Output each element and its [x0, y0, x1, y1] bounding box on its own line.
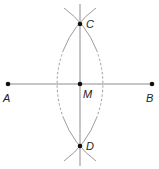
label-m: M: [83, 88, 93, 100]
point-c: [78, 22, 83, 27]
label-d: D: [86, 140, 94, 152]
point-b: [150, 82, 155, 87]
point-m: [78, 82, 83, 87]
label-c: C: [86, 18, 94, 30]
point-d: [78, 144, 83, 149]
point-a: [6, 82, 11, 87]
label-b: B: [146, 92, 153, 104]
label-a: A: [2, 92, 10, 104]
bisector-diagram: A B M C D: [0, 0, 159, 169]
